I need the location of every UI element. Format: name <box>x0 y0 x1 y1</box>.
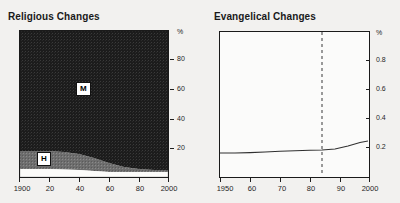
xtick-label-left-2000: 2000 <box>161 184 178 193</box>
ytick-mark-left-40 <box>170 119 174 120</box>
ytick-label-left-80: 80 <box>177 55 185 62</box>
ytick-label-right-02: 0.2 <box>376 143 386 150</box>
xtick-mark-left-2000 <box>168 178 169 182</box>
xtick-label-left-40: 40 <box>76 184 84 193</box>
panel-religious-changes: Religious Changes <box>0 0 200 203</box>
xtick-mark-right-80 <box>310 178 311 182</box>
series-label-h: H <box>37 152 51 166</box>
xtick-label-right-90: 90 <box>337 184 345 193</box>
xtick-mark-left-1900 <box>19 178 20 182</box>
panel-title-evangelical: Evangelical Changes <box>214 11 316 22</box>
yaxis-unit-left: % <box>177 28 183 35</box>
xtick-mark-right-2000 <box>369 178 370 182</box>
xtick-mark-left-40 <box>79 178 80 182</box>
ytick-label-left-20: 20 <box>177 144 185 151</box>
xtick-label-right-2000: 2000 <box>362 184 379 193</box>
figure-canvas: Religious Changes <box>0 0 400 203</box>
ytick-label-right-08: 0.8 <box>376 56 386 63</box>
xtick-label-left-60: 60 <box>106 184 114 193</box>
xtick-label-left-20: 20 <box>46 184 54 193</box>
ytick-mark-right-08 <box>366 60 370 61</box>
ytick-mark-right-04 <box>366 118 370 119</box>
xtick-label-right-80: 80 <box>307 184 315 193</box>
xtick-mark-left-80 <box>139 178 140 182</box>
xtick-mark-right-70 <box>280 178 281 182</box>
evangelical-trend-line <box>220 141 368 153</box>
xtick-label-left-80: 80 <box>136 184 144 193</box>
yaxis-unit-right: % <box>376 29 382 36</box>
xtick-label-left-1900: 1900 <box>14 184 31 193</box>
xtick-mark-left-60 <box>109 178 110 182</box>
xtick-label-right-70: 70 <box>278 184 286 193</box>
ytick-mark-right-06 <box>366 89 370 90</box>
ytick-label-left-60: 60 <box>177 85 185 92</box>
evangelical-line-svg <box>220 32 368 176</box>
religious-band-m <box>19 30 169 170</box>
xtick-mark-right-60 <box>250 178 251 182</box>
ytick-mark-right-02 <box>366 147 370 148</box>
xtick-label-right-60: 60 <box>248 184 256 193</box>
ytick-label-right-04: 0.4 <box>376 114 386 121</box>
plot-area-religious: M H <box>19 30 169 178</box>
plot-area-evangelical <box>219 31 370 178</box>
ytick-label-left-40: 40 <box>177 115 185 122</box>
xtick-mark-right-1950 <box>220 178 221 182</box>
ytick-mark-left-60 <box>170 89 174 90</box>
xtick-mark-left-20 <box>49 178 50 182</box>
ytick-mark-left-20 <box>170 148 174 149</box>
panel-title-religious: Religious Changes <box>8 11 100 22</box>
xtick-label-right-1950: 1950 <box>217 184 234 193</box>
ytick-mark-left-80 <box>170 59 174 60</box>
xtick-mark-right-90 <box>340 178 341 182</box>
ytick-label-right-06: 0.6 <box>376 85 386 92</box>
series-label-m: M <box>76 82 91 96</box>
